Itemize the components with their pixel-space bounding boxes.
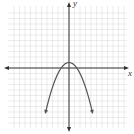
y-axis-down-arrow-icon: [67, 127, 71, 132]
grid-lines: [8, 6, 127, 128]
x-axis-left-arrow-icon: [4, 66, 9, 70]
x-axis-label: x: [128, 68, 132, 78]
y-axis-label: y: [73, 0, 77, 8]
y-axis: [67, 2, 71, 132]
coordinate-plane: [0, 0, 134, 134]
x-axis: [4, 66, 129, 70]
y-axis-up-arrow-icon: [67, 2, 71, 7]
